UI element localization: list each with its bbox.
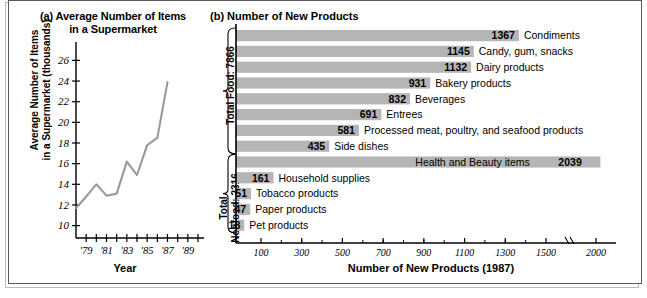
panel-a-ytick-label: 24 [58, 75, 70, 87]
panel-a-xtick-label: '87 [161, 245, 174, 256]
panel-a-xtick-label: '79 [80, 245, 93, 256]
panel-b-xtick-label: 100 [254, 247, 269, 258]
bar [236, 93, 410, 104]
panel-a-ytick-label: 20 [58, 116, 70, 128]
bar-label: Paper products [255, 204, 326, 215]
bar-label: Entrees [386, 109, 422, 120]
bar [236, 30, 519, 41]
panel-b-xtick-label: 500 [335, 247, 350, 258]
panel-a-xtick-label: '83 [120, 245, 133, 256]
bar-label: Household supplies [278, 173, 370, 184]
bar-value: 1367 [492, 30, 515, 41]
bar-value: 18 [229, 220, 241, 231]
panel-a-ytick-label: 10 [58, 219, 70, 231]
bar [236, 62, 471, 73]
bar-value: 435 [308, 141, 326, 152]
bar-value: 47 [235, 204, 247, 215]
panel-a-data-line [76, 82, 168, 208]
bar-value: 1145 [447, 46, 470, 57]
panel-a-ytick-label: 14 [58, 178, 70, 190]
panel-a-xtick-label: '89 [181, 245, 194, 256]
panel-a-ytick-label: 22 [58, 95, 70, 107]
bar-label: Processed meat, poultry, and seafood pro… [364, 125, 583, 136]
bar [236, 46, 474, 57]
bar-label: Bakery products [435, 78, 511, 89]
bar-label: Beverages [415, 94, 465, 105]
bar-value: 691 [360, 109, 378, 120]
panel-b-xtick-label: 900 [416, 247, 431, 258]
bar-label: Dairy products [476, 62, 544, 73]
panel-b-xtick-label: 1500 [536, 247, 556, 258]
panel-a-xtick-label: '85 [141, 245, 154, 256]
bar-label: Health and Beauty items [415, 157, 529, 168]
panel-b-x-axis-label: Number of New Products (1987) [266, 262, 596, 274]
bar-value: 2039 [558, 157, 581, 168]
bar [236, 77, 430, 88]
bar-label: Side dishes [334, 141, 388, 152]
figure-root: (a) Average Number of Items in a Superma… [0, 0, 647, 298]
group-bracket-food [223, 28, 235, 154]
panel-a-ytick-label: 26 [58, 54, 70, 66]
panel-a-ytick-label: 18 [58, 137, 70, 149]
panel-b-xtick-label: 1100 [455, 247, 474, 258]
bar-label: Pet products [249, 220, 308, 231]
panel-a-xtick-label: '81 [100, 245, 113, 256]
bar-value: 51 [235, 188, 247, 199]
bar-label: Condiments [524, 30, 580, 41]
bar-value: 581 [337, 125, 355, 136]
bar-value: 832 [388, 94, 406, 105]
bar-value: 931 [409, 78, 427, 89]
panel-a-x-axis-label: Year [50, 262, 200, 274]
bar-label: Candy, gum, snacks [479, 46, 573, 57]
panel-a-ytick-label: 12 [58, 199, 70, 211]
panel-a-line-chart: (a) Average Number of Items in a Superma… [10, 0, 210, 284]
bar-value: 161 [252, 173, 270, 184]
bar-value: 1132 [444, 62, 467, 73]
panel-b-xtick-label: 300 [293, 247, 309, 258]
panel-b-xtick-label: 2000 [586, 247, 606, 258]
panel-a-plot: 101214161820222426 '79'81'83'85'87'89 [10, 0, 210, 284]
panel-b-xtick-label: 1300 [495, 247, 515, 258]
panel-b-plot: 1003005007009001100130015002000 [206, 0, 642, 284]
panel-a-ytick-label: 16 [58, 157, 70, 169]
bar-label: Tobacco products [256, 188, 338, 199]
panel-b-bar-chart: (b) Number of New Products Total Food: 7… [206, 0, 642, 284]
panel-b-xtick-label: 700 [376, 247, 391, 258]
